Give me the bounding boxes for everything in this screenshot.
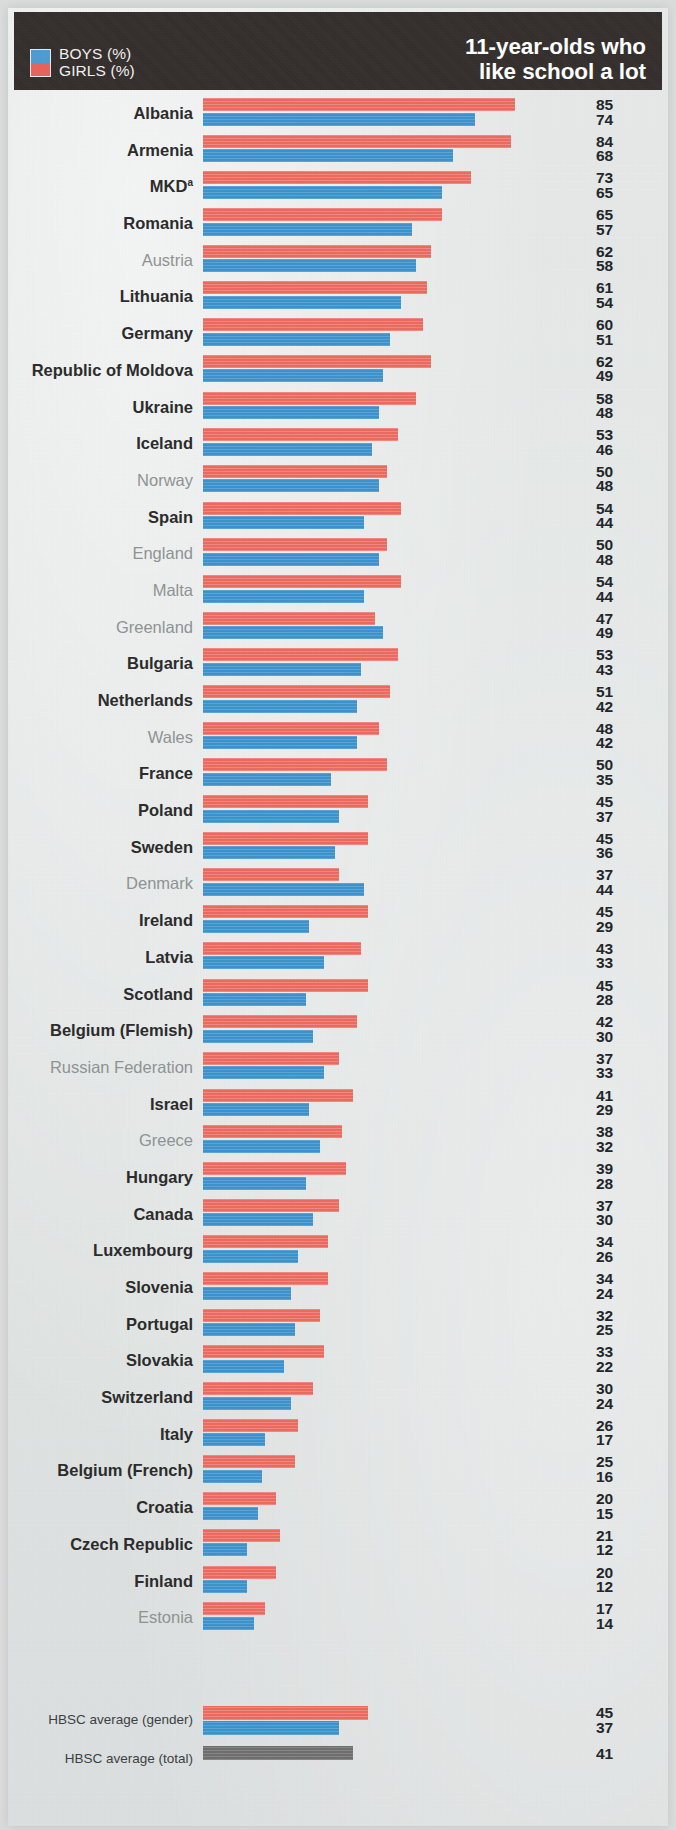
row-bars — [203, 1199, 339, 1227]
chart-row: Italy2617 — [0, 1417, 676, 1454]
girls-bar — [203, 979, 368, 992]
boys-value: 25 — [596, 1323, 613, 1338]
row-bars — [203, 1235, 328, 1263]
girls-bar — [203, 245, 431, 258]
row-label: MKDa — [0, 176, 193, 197]
row-label: Slovakia — [0, 1350, 193, 1371]
row-values: 5848 — [596, 392, 613, 421]
row-values: 5444 — [596, 502, 613, 531]
boys-value: 24 — [596, 1397, 613, 1412]
girls-bar — [203, 758, 387, 771]
boys-value: 44 — [596, 590, 613, 605]
girls-bar — [203, 1015, 357, 1028]
row-values: 4528 — [596, 979, 613, 1008]
row-values: 5048 — [596, 465, 613, 494]
boys-value: 44 — [596, 883, 613, 898]
chart-row: Switzerland3024 — [0, 1380, 676, 1417]
row-values: 1714 — [596, 1602, 613, 1631]
boys-value: 68 — [596, 149, 613, 164]
boys-value: 28 — [596, 993, 613, 1008]
chart-row: Netherlands5142 — [0, 683, 676, 720]
girls-bar — [203, 1345, 324, 1358]
boys-bar — [203, 700, 357, 713]
row-label: Finland — [0, 1571, 193, 1592]
row-bars — [203, 979, 368, 1007]
boys-bar — [203, 956, 324, 969]
boys-bar — [203, 1397, 291, 1410]
row-bars — [203, 1455, 295, 1483]
row-values: 5346 — [596, 428, 613, 457]
row-values: 4537 — [596, 795, 613, 824]
boys-value: 33 — [596, 1066, 613, 1081]
row-values: 3733 — [596, 1052, 613, 1081]
chart-row: Latvia4333 — [0, 940, 676, 977]
chart-row: Bulgaria5343 — [0, 646, 676, 683]
girls-bar — [203, 1492, 276, 1505]
row-label: Israel — [0, 1094, 193, 1115]
boys-bar — [203, 590, 364, 603]
boys-value: 30 — [596, 1213, 613, 1228]
row-values: 8468 — [596, 135, 613, 164]
row-bars — [203, 171, 471, 199]
row-values: 3730 — [596, 1199, 613, 1228]
row-values: 5444 — [596, 575, 613, 604]
girls-bar — [203, 1309, 320, 1322]
row-bars — [203, 465, 387, 493]
row-label: Ireland — [0, 910, 193, 931]
boys-bar — [203, 333, 390, 346]
boys-bar — [203, 186, 442, 199]
row-values: 3424 — [596, 1272, 613, 1301]
girls-bar — [203, 1529, 280, 1542]
row-values: 5048 — [596, 538, 613, 567]
row-label: Portugal — [0, 1314, 193, 1335]
row-bars — [203, 538, 387, 566]
chart-row: Malta5444 — [0, 573, 676, 610]
row-values: 6154 — [596, 281, 613, 310]
chart-row: Croatia2015 — [0, 1490, 676, 1527]
row-bars — [203, 1419, 298, 1447]
boys-value: 51 — [596, 333, 613, 348]
chart-row: Slovakia3322 — [0, 1343, 676, 1380]
row-values: 2012 — [596, 1566, 613, 1595]
boys-value: 58 — [596, 259, 613, 274]
row-values: 3024 — [596, 1382, 613, 1411]
row-label: Estonia — [0, 1607, 193, 1628]
row-bars — [203, 428, 398, 456]
boys-bar — [203, 1066, 324, 1079]
girls-bar — [203, 685, 390, 698]
boys-bar — [203, 1250, 298, 1263]
girls-bar — [203, 612, 375, 625]
boys-value: 42 — [596, 700, 613, 715]
boys-value: 54 — [596, 296, 613, 311]
row-bars — [203, 1309, 320, 1337]
boys-value: 48 — [596, 406, 613, 421]
girls-bar — [203, 832, 368, 845]
page-title-line2: like school a lot — [465, 59, 646, 84]
chart-row: Denmark3744 — [0, 866, 676, 903]
row-label: England — [0, 543, 193, 564]
row-label: Luxembourg — [0, 1240, 193, 1261]
row-label: Armenia — [0, 140, 193, 161]
boys-bar — [203, 663, 361, 676]
chart-row: Germany6051 — [0, 316, 676, 353]
chart-row: Hungary3928 — [0, 1160, 676, 1197]
row-bars — [203, 905, 368, 933]
row-bars — [203, 868, 364, 896]
girls-bar — [203, 465, 387, 478]
legend-label-girls: GIRLS (%) — [59, 63, 135, 80]
chart-row: Spain5444 — [0, 500, 676, 537]
boys-bar — [203, 259, 416, 272]
row-bars — [203, 1345, 324, 1373]
row-bars — [203, 1272, 328, 1300]
chart-row: Romania6557 — [0, 206, 676, 243]
boys-value: 35 — [596, 773, 613, 788]
row-label-footnote-marker: a — [187, 177, 193, 188]
row-values: 3426 — [596, 1235, 613, 1264]
boys-value: 16 — [596, 1470, 613, 1485]
chart-row: MKDa7365 — [0, 169, 676, 206]
row-bars — [203, 208, 442, 236]
boys-bar — [203, 993, 306, 1006]
chart-rows: Albania8574Armenia8468MKDa7365Romania655… — [0, 96, 676, 1637]
average-total-bars — [203, 1746, 353, 1760]
row-label: Russian Federation — [0, 1057, 193, 1078]
